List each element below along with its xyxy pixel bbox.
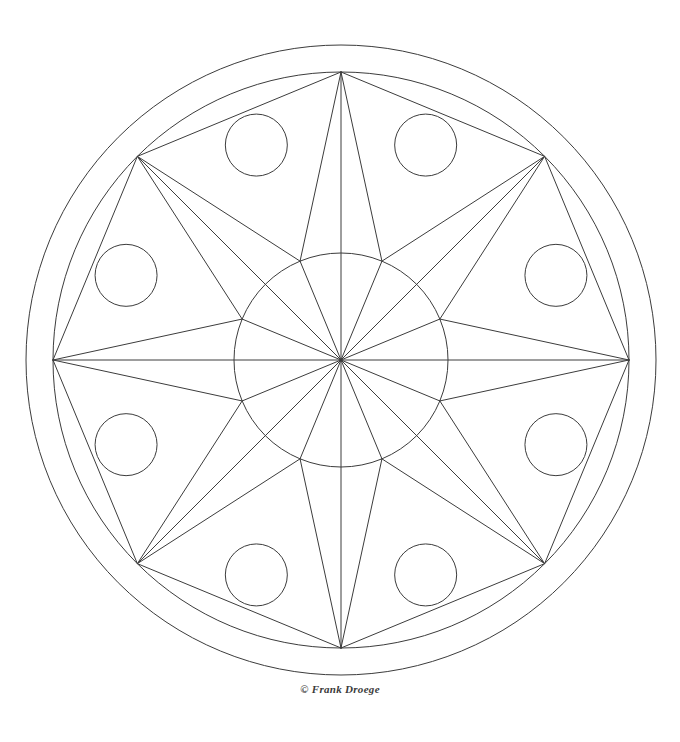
star-flank-left-1 — [440, 319, 629, 360]
star-flank-right-3 — [300, 459, 341, 648]
star-flank-left-2 — [440, 401, 545, 564]
star-chord-4 — [53, 360, 137, 564]
decorative-circle-8 — [95, 244, 157, 306]
star-flank-right-1 — [440, 360, 629, 401]
decorative-circle-5 — [395, 544, 457, 606]
star-flank-right-4 — [137, 401, 242, 564]
star-flank-left-6 — [137, 156, 242, 319]
star-chord-7 — [341, 72, 545, 156]
copyright-credit: © Frank Droege — [0, 683, 680, 695]
star-flank-right-7 — [341, 72, 382, 261]
star-chord-5 — [53, 156, 137, 360]
mandala-illustration — [0, 0, 680, 742]
star-chord-6 — [137, 72, 341, 156]
star-flank-left-4 — [137, 459, 300, 564]
star-spoke-4 — [137, 360, 341, 564]
eight-point-star-group — [53, 72, 629, 648]
star-chord-8 — [545, 156, 629, 360]
star-chord-3 — [137, 564, 341, 648]
star-spoke-8 — [341, 156, 545, 360]
decorative-circle-4 — [525, 414, 587, 476]
decorative-circle-1 — [225, 114, 287, 176]
decorative-circle-2 — [395, 114, 457, 176]
star-flank-left-3 — [341, 459, 382, 648]
star-spoke-2 — [341, 360, 545, 564]
star-flank-right-6 — [137, 156, 300, 261]
star-spoke-6 — [137, 156, 341, 360]
star-flank-left-8 — [382, 156, 545, 261]
decorative-circle-3 — [525, 244, 587, 306]
star-chord-1 — [545, 360, 629, 564]
coloring-page-canvas: © Frank Droege — [0, 0, 680, 742]
decorative-circle-7 — [95, 414, 157, 476]
star-flank-right-2 — [382, 459, 545, 564]
decorative-circle-6 — [225, 544, 287, 606]
star-flank-right-5 — [53, 319, 242, 360]
star-flank-right-8 — [440, 156, 545, 319]
star-chord-2 — [341, 564, 545, 648]
star-flank-left-7 — [300, 72, 341, 261]
star-flank-left-5 — [53, 360, 242, 401]
